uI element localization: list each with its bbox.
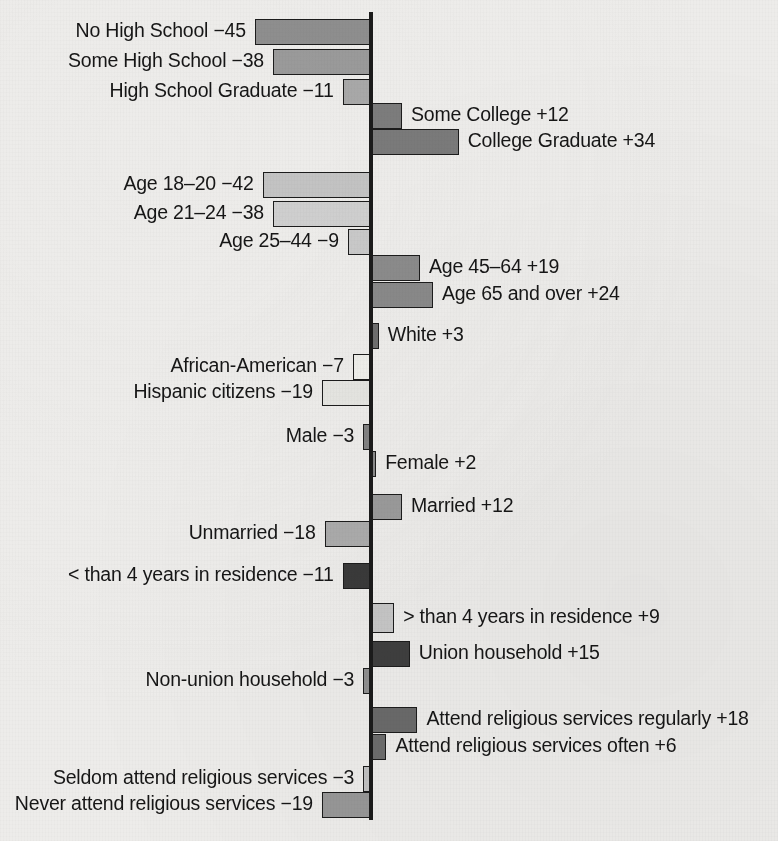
bar-label: Married +12	[411, 496, 513, 516]
bar-row: Age 65 and over +24	[0, 282, 778, 308]
bar-row: Never attend religious services −19	[0, 792, 778, 818]
bar-label: Male −3	[286, 426, 355, 446]
bar	[371, 707, 417, 733]
bar-label: Some College +12	[411, 105, 569, 125]
bar	[371, 641, 410, 667]
bar	[348, 229, 371, 255]
bar	[322, 380, 371, 406]
bar-row: Union household +15	[0, 641, 778, 667]
bar-label: White +3	[388, 325, 464, 345]
bar-label: Unmarried −18	[189, 523, 316, 543]
bar-row: Male −3	[0, 424, 778, 450]
bar-label: Age 45–64 +19	[429, 257, 559, 277]
bar	[371, 494, 402, 520]
bar-label: College Graduate +34	[468, 131, 655, 151]
bar-row: Age 18–20 −42	[0, 172, 778, 198]
bar	[343, 79, 371, 105]
bar	[371, 129, 459, 155]
bar-row: Age 25–44 −9	[0, 229, 778, 255]
bar-row: College Graduate +34	[0, 129, 778, 155]
bar	[343, 563, 371, 589]
bar-label: Age 18–20 −42	[123, 174, 253, 194]
bar	[273, 49, 371, 75]
bar-row: Married +12	[0, 494, 778, 520]
bar	[371, 103, 402, 129]
bar-row: Some High School −38	[0, 49, 778, 75]
bar-label: < than 4 years in residence −11	[68, 565, 334, 585]
bar-label: Non-union household −3	[146, 670, 355, 690]
bar	[263, 172, 371, 198]
bar	[273, 201, 371, 227]
bar-label: High School Graduate −11	[110, 81, 334, 101]
bar	[371, 734, 386, 760]
bar	[371, 282, 433, 308]
bar-row: Seldom attend religious services −3	[0, 766, 778, 792]
bar-label: Attend religious services regularly +18	[426, 709, 748, 729]
bar-row: African-American −7	[0, 354, 778, 380]
bar-row: Non-union household −3	[0, 668, 778, 694]
bar-row: < than 4 years in residence −11	[0, 563, 778, 589]
bar-label: Hispanic citizens −19	[133, 382, 313, 402]
bar-row: No High School −45	[0, 19, 778, 45]
diverging-bar-chart: No High School −45Some High School −38Hi…	[0, 0, 778, 841]
bar-label: No High School −45	[76, 21, 246, 41]
bar-row: Attend religious services often +6	[0, 734, 778, 760]
bar	[371, 603, 394, 633]
bar-label: Attend religious services often +6	[395, 736, 676, 756]
zero-axis-line	[369, 12, 373, 820]
bar-row: Age 45–64 +19	[0, 255, 778, 281]
bar-row: Female +2	[0, 451, 778, 477]
bar	[371, 255, 420, 281]
bar-row: Age 21–24 −38	[0, 201, 778, 227]
bar-row: Attend religious services regularly +18	[0, 707, 778, 733]
bar-label: Some High School −38	[68, 51, 264, 71]
bar	[255, 19, 371, 45]
bar-row: Unmarried −18	[0, 521, 778, 547]
bar	[325, 521, 371, 547]
bar-label: Never attend religious services −19	[15, 794, 313, 814]
bar-row: Hispanic citizens −19	[0, 380, 778, 406]
bar	[322, 792, 371, 818]
bar-label: Age 21–24 −38	[134, 203, 264, 223]
bar-row: White +3	[0, 323, 778, 349]
bar-label: Seldom attend religious services −3	[53, 768, 354, 788]
bar-label: African-American −7	[171, 356, 344, 376]
bar-row: > than 4 years in residence +9	[0, 603, 778, 633]
bar-label: Female +2	[385, 453, 476, 473]
bar-row: Some College +12	[0, 103, 778, 129]
bar-label: > than 4 years in residence +9	[403, 607, 659, 627]
bar-label: Union household +15	[419, 643, 600, 663]
bar-label: Age 65 and over +24	[442, 284, 620, 304]
bar-label: Age 25–44 −9	[219, 231, 339, 251]
bar-row: High School Graduate −11	[0, 79, 778, 105]
